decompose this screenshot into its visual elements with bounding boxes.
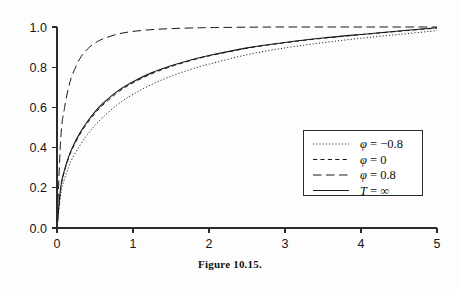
legend-label: φ = 0.8 — [360, 168, 396, 182]
x-tick-label: 1 — [130, 237, 137, 251]
y-tick-label: 0.8 — [30, 61, 47, 75]
x-tick-label: 5 — [434, 237, 441, 251]
figure-caption: Figure 10.15. — [0, 258, 460, 270]
legend-label: φ = −0.8 — [360, 137, 403, 151]
y-tick-label: 0.0 — [30, 222, 47, 236]
curve-longdash — [57, 27, 437, 228]
y-tick-label: 0.2 — [30, 181, 47, 195]
y-tick-label: 0.4 — [30, 141, 47, 155]
chart-canvas: 0.00.20.40.60.81.0 012345 φ = −0.8φ = 0φ… — [0, 0, 460, 289]
curve-solid — [57, 28, 437, 228]
x-tick-label: 4 — [358, 237, 365, 251]
legend-label: T = ∞ — [360, 184, 389, 198]
x-tick-label: 2 — [206, 237, 213, 251]
curves-group — [57, 27, 437, 228]
legend-label: φ = 0 — [360, 153, 386, 167]
y-axis-ticks: 0.00.20.40.60.81.0 — [30, 21, 57, 236]
curve-dotted — [57, 31, 437, 228]
x-tick-label: 3 — [282, 237, 289, 251]
y-tick-label: 0.6 — [30, 101, 47, 115]
x-tick-label: 0 — [54, 237, 61, 251]
chart-legend: φ = −0.8φ = 0φ = 0.8T = ∞ — [304, 131, 423, 198]
y-tick-label: 1.0 — [30, 21, 47, 35]
x-axis-ticks: 012345 — [54, 228, 441, 251]
curve-dashed — [57, 28, 437, 228]
axes-group — [57, 27, 437, 228]
figure-container: 0.00.20.40.60.81.0 012345 φ = −0.8φ = 0φ… — [0, 0, 460, 289]
